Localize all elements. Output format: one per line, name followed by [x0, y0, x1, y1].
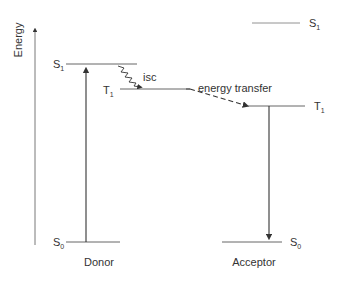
energy-transfer-arrow: energy transfer — [186, 82, 272, 106]
isc-arrow: isc — [118, 66, 157, 87]
energy-axis: Energy — [12, 22, 35, 245]
energy-axis-label: Energy — [12, 22, 24, 57]
donor-s1-label: S1 — [53, 58, 64, 72]
acceptor-s0-label: S0 — [290, 236, 301, 250]
acceptor-label: Acceptor — [232, 256, 276, 268]
isc-label: isc — [143, 71, 157, 83]
acceptor-t1-label: T1 — [314, 100, 325, 114]
acceptor-levels: S1 T1 S0 Acceptor — [222, 17, 325, 268]
acceptor-s1-label: S1 — [309, 17, 320, 31]
donor-label: Donor — [84, 256, 114, 268]
donor-s0-label: S0 — [53, 236, 64, 250]
donor-levels: S1 T1 S0 Donor — [53, 58, 190, 268]
energy-transfer-label: energy transfer — [198, 82, 272, 94]
energy-diagram: Energy S1 T1 S0 Donor isc energy transfe… — [0, 0, 339, 282]
donor-t1-label: T1 — [103, 84, 114, 98]
